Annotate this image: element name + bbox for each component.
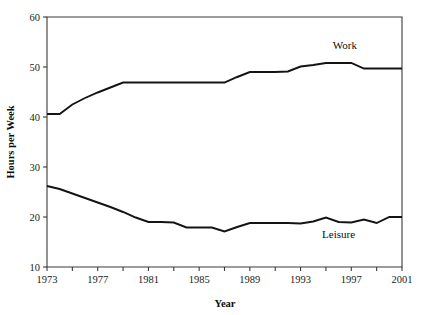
chart-figure: 102030405060 197319771981198519891993199… xyxy=(0,0,425,315)
x-tick-label: 1977 xyxy=(87,274,108,285)
series-annotations: WorkLeisure xyxy=(322,39,357,240)
y-tick-label: 60 xyxy=(30,12,41,23)
x-axis-tick-labels: 19731977198119851989199319972001 xyxy=(37,274,413,285)
x-tick-label: 1981 xyxy=(138,274,159,285)
line-chart: 102030405060 197319771981198519891993199… xyxy=(0,0,425,315)
series-label-work: Work xyxy=(333,39,358,51)
x-tick-label: 1989 xyxy=(239,274,260,285)
x-tick-label: 2001 xyxy=(392,274,413,285)
x-axis-title: Year xyxy=(215,298,236,309)
data-series-group xyxy=(47,63,402,232)
y-axis-title: Hours per Week xyxy=(5,105,16,178)
x-tick-label: 1993 xyxy=(290,274,311,285)
x-tick-label: 1997 xyxy=(341,274,362,285)
series-label-leisure: Leisure xyxy=(322,228,355,240)
x-tick-label: 1973 xyxy=(37,274,58,285)
y-tick-label: 40 xyxy=(30,112,41,123)
series-line-leisure xyxy=(47,186,402,232)
x-axis-ticks xyxy=(47,267,402,271)
y-tick-label: 10 xyxy=(30,262,41,273)
y-tick-label: 30 xyxy=(30,162,41,173)
y-axis-ticks xyxy=(43,17,47,267)
x-tick-label: 1985 xyxy=(189,274,210,285)
y-axis-tick-labels: 102030405060 xyxy=(30,12,41,273)
y-tick-label: 20 xyxy=(30,212,41,223)
y-tick-label: 50 xyxy=(30,62,41,73)
series-line-work xyxy=(47,63,402,114)
